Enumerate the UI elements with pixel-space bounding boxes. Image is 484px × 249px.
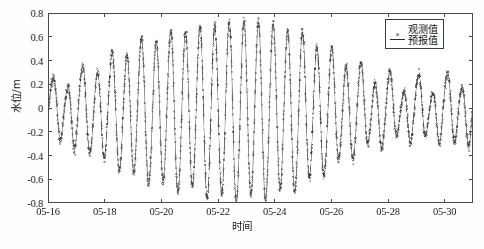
y-tick-mark-right xyxy=(469,36,473,37)
x-tick-mark-top xyxy=(388,13,389,17)
x-tick-label: 05-30 xyxy=(433,206,457,217)
x-tick-mark-top xyxy=(274,13,275,17)
x-tick-label: 05-20 xyxy=(150,206,174,217)
figure-container: 水位/m 0.80.60.40.20-0.2-0.4-0.6-0.8 05-16… xyxy=(0,0,484,249)
y-tick-label: 0.8 xyxy=(30,8,43,19)
y-tick-label: -0.4 xyxy=(27,150,43,161)
x-tick-mark xyxy=(104,199,105,203)
x-tick-mark-top xyxy=(444,13,445,17)
x-tick-label: 05-22 xyxy=(206,206,230,217)
line-segment-icon xyxy=(389,34,406,45)
x-tick-mark-top xyxy=(104,13,105,17)
x-tick-label: 05-16 xyxy=(36,206,60,217)
x-axis-title: 时间 xyxy=(0,218,484,233)
x-tick-mark xyxy=(218,199,219,203)
y-tick-mark-right xyxy=(469,108,473,109)
x-tick-mark xyxy=(388,199,389,203)
y-tick-label: 0.4 xyxy=(30,55,43,66)
y-axis-title: 水位/m xyxy=(8,79,23,113)
y-tick-label: -0.6 xyxy=(27,174,43,185)
x-tick-mark-top xyxy=(161,13,162,17)
y-tick-mark xyxy=(48,179,52,180)
y-tick-mark-right xyxy=(469,131,473,132)
y-tick-label: 0.6 xyxy=(30,31,43,42)
x-tick-mark-top xyxy=(218,13,219,17)
x-tick-label: 05-18 xyxy=(93,206,117,217)
y-tick-mark xyxy=(48,155,52,156)
chart-legend: × 观测值 预报值 xyxy=(385,19,444,49)
y-tick-label: 0.2 xyxy=(30,79,43,90)
legend-item-forecast: 预报值 xyxy=(389,34,438,45)
x-tick-label: 05-28 xyxy=(376,206,400,217)
x-tick-mark xyxy=(274,199,275,203)
y-tick-mark-right xyxy=(469,155,473,156)
y-tick-mark-right xyxy=(469,84,473,85)
x-tick-mark xyxy=(161,199,162,203)
marker-x-icon: × xyxy=(389,23,406,34)
y-tick-label: -0.2 xyxy=(27,126,43,137)
figure-caption xyxy=(0,241,484,249)
y-tick-mark xyxy=(48,36,52,37)
x-tick-label: 05-26 xyxy=(320,206,344,217)
y-tick-label: 0 xyxy=(38,103,43,114)
legend-label-forecast: 预报值 xyxy=(406,32,438,47)
x-tick-mark xyxy=(444,199,445,203)
x-tick-label: 05-24 xyxy=(263,206,287,217)
y-tick-mark-right xyxy=(469,60,473,61)
y-tick-mark xyxy=(48,60,52,61)
y-tick-mark xyxy=(48,84,52,85)
x-tick-mark xyxy=(331,199,332,203)
y-tick-mark xyxy=(48,108,52,109)
y-tick-mark xyxy=(48,131,52,132)
x-tick-mark-top xyxy=(331,13,332,17)
y-tick-mark-right xyxy=(469,179,473,180)
